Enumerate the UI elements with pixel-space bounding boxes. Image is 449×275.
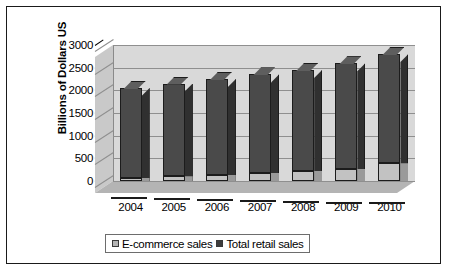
bar-segment-total-retail — [120, 88, 142, 178]
bar-side-face — [271, 74, 279, 181]
bar-2006 — [206, 79, 228, 181]
bar-side-face-ecommerce — [314, 171, 322, 181]
bar-segment-total-retail — [206, 79, 228, 175]
bar-side-face-ecommerce — [228, 175, 236, 181]
bar-segment-ecommerce — [335, 169, 357, 181]
bar-2009 — [335, 63, 357, 181]
bar-side-face — [228, 79, 236, 181]
x-axis-segment — [197, 199, 233, 201]
plot-floor — [95, 181, 415, 193]
bar-2010 — [378, 54, 400, 181]
y-tick-label: 2000 — [49, 85, 93, 95]
y-tick-label: 2500 — [49, 63, 93, 73]
bar-side-face — [142, 88, 150, 181]
bar-side-face — [357, 63, 365, 181]
bar-2008 — [292, 70, 314, 181]
bar-segment-total-retail — [163, 84, 185, 177]
bar-side-face-ecommerce — [185, 176, 193, 181]
x-tick-label-2005: 2005 — [157, 201, 191, 213]
legend-swatch-icon-ecommerce — [112, 240, 119, 247]
x-tick-label-2007: 2007 — [243, 201, 277, 213]
chart-canvas: Billions of Dollars US 05001000150020002… — [21, 21, 428, 249]
chart-legend: E-commerce sales Total retail sales — [105, 234, 310, 253]
bar-side-face — [314, 70, 322, 181]
x-axis-segment — [326, 202, 362, 204]
gridline — [113, 45, 415, 46]
legend-swatch-icon-total-retail — [216, 240, 223, 247]
bar-segment-ecommerce — [292, 171, 314, 181]
x-axis-segment — [154, 198, 190, 200]
y-tick-label: 1000 — [49, 131, 93, 141]
x-axis-segment — [240, 200, 276, 202]
y-tick-label: 3000 — [49, 40, 93, 50]
bar-segment-total-retail — [249, 74, 271, 172]
x-tick-label-2008: 2008 — [286, 201, 320, 213]
bar-side-face-ecommerce — [271, 173, 279, 181]
legend-label-ecommerce: E-commerce sales — [122, 238, 212, 250]
bar-2004 — [120, 88, 142, 181]
bar-side-face-ecommerce — [142, 178, 150, 181]
legend-item-total-retail: Total retail sales — [216, 238, 303, 250]
bar-segment-ecommerce — [163, 176, 185, 181]
x-axis-segment — [369, 202, 405, 204]
y-tick-label: 500 — [49, 153, 93, 163]
bar-side-face — [185, 84, 193, 181]
x-tick-label-2004: 2004 — [114, 201, 148, 213]
y-tick-label: 1500 — [49, 108, 93, 118]
figure-border: Billions of Dollars US 05001000150020002… — [6, 6, 441, 264]
bar-2005 — [163, 84, 185, 181]
x-tick-label-2006: 2006 — [200, 201, 234, 213]
bar-segment-total-retail — [292, 70, 314, 171]
bar-segment-total-retail — [335, 63, 357, 169]
y-axis-tick-labels: 050010001500200025003000 — [49, 21, 93, 221]
chart-figure: Billions of Dollars US 05001000150020002… — [0, 0, 449, 275]
bar-side-face-ecommerce — [400, 163, 408, 181]
x-axis-segment — [283, 201, 319, 203]
bar-side-face — [400, 54, 408, 181]
legend-item-ecommerce: E-commerce sales — [112, 238, 212, 250]
plot-area — [95, 45, 415, 193]
bar-segment-ecommerce — [249, 173, 271, 181]
bar-segment-ecommerce — [120, 178, 142, 181]
x-axis-tick-labels: 2004200520062007200820092010 — [95, 201, 425, 217]
y-tick-label: 0 — [49, 176, 93, 186]
x-axis-segment — [111, 197, 147, 199]
bar-2007 — [249, 74, 271, 181]
legend-label-total-retail: Total retail sales — [226, 238, 303, 250]
bar-segment-ecommerce — [378, 163, 400, 181]
bar-segment-ecommerce — [206, 175, 228, 181]
gridline — [113, 181, 415, 182]
bar-side-face-ecommerce — [357, 169, 365, 181]
bar-segment-total-retail — [378, 54, 400, 163]
